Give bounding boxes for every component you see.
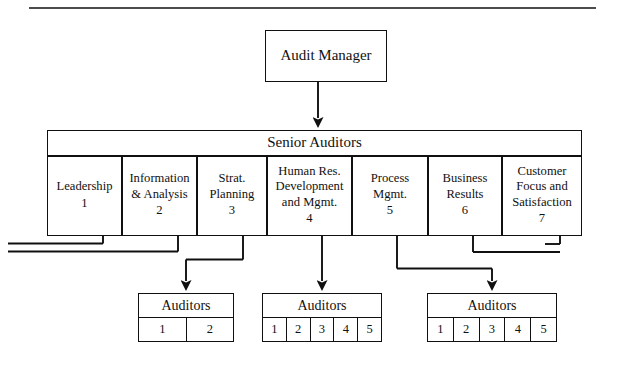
category-box-1: Leadership 1 — [47, 156, 122, 236]
auditors-group-3-cells: 1 2 3 4 5 — [427, 318, 557, 342]
auditor-cell: 2 — [187, 318, 234, 341]
category-name-6: Business Results — [443, 171, 488, 202]
auditors-group-1-label: Auditors — [162, 298, 211, 314]
auditor-cell: 1 — [428, 318, 454, 341]
auditor-cell: 3 — [480, 318, 506, 341]
category-box-4: Human Res. Development and Mgmt. 4 — [267, 156, 352, 236]
category-number-5: 5 — [387, 203, 393, 218]
auditors-group-1: Auditors 1 2 — [138, 293, 234, 342]
auditor-cell: 3 — [311, 318, 335, 341]
category-name-1: Leadership — [57, 179, 113, 194]
auditor-cell: 1 — [139, 318, 187, 341]
category-name-3: Strat. Planning — [210, 171, 255, 202]
auditors-group-2-label: Auditors — [298, 298, 347, 314]
auditors-group-2-header: Auditors — [262, 293, 382, 318]
auditor-cell: 5 — [531, 318, 556, 341]
auditor-cell: 1 — [263, 318, 287, 341]
auditors-group-1-cells: 1 2 — [138, 318, 234, 342]
category-box-2: Information & Analysis 2 — [122, 156, 197, 236]
category-box-3: Strat. Planning 3 — [197, 156, 267, 236]
category-number-3: 3 — [229, 203, 235, 218]
category-number-6: 6 — [462, 203, 468, 218]
category-number-4: 4 — [306, 211, 312, 226]
category-name-7: Customer Focus and Satisfaction — [512, 164, 571, 210]
category-name-4: Human Res. Development and Mgmt. — [276, 164, 344, 210]
category-name-2: Information & Analysis — [129, 171, 189, 202]
auditors-group-3: Auditors 1 2 3 4 5 — [427, 293, 557, 342]
category-number-1: 1 — [81, 196, 87, 211]
diagram-canvas: Audit Manager Senior Auditors Leadership… — [0, 0, 628, 368]
senior-auditors-box: Senior Auditors — [47, 130, 582, 156]
auditors-group-2-cells: 1 2 3 4 5 — [262, 318, 382, 342]
category-box-6: Business Results 6 — [428, 156, 502, 236]
auditor-cell: 2 — [287, 318, 311, 341]
auditor-cell: 4 — [505, 318, 531, 341]
auditors-group-2: Auditors 1 2 3 4 5 — [262, 293, 382, 342]
auditors-group-1-header: Auditors — [138, 293, 234, 318]
senior-auditors-label: Senior Auditors — [267, 134, 362, 151]
category-box-7: Customer Focus and Satisfaction 7 — [502, 156, 582, 236]
category-number-2: 2 — [156, 203, 162, 218]
category-box-5: Process Mgmt. 5 — [352, 156, 428, 236]
category-number-7: 7 — [539, 211, 545, 226]
auditor-cell: 5 — [358, 318, 381, 341]
auditors-group-3-header: Auditors — [427, 293, 557, 318]
category-name-5: Process Mgmt. — [371, 171, 409, 202]
audit-manager-label: Audit Manager — [280, 47, 371, 64]
audit-manager-box: Audit Manager — [265, 30, 387, 82]
auditors-group-3-label: Auditors — [468, 298, 517, 314]
auditor-cell: 2 — [454, 318, 480, 341]
category-row: Leadership 1 Information & Analysis 2 St… — [47, 156, 582, 236]
auditor-cell: 4 — [334, 318, 358, 341]
